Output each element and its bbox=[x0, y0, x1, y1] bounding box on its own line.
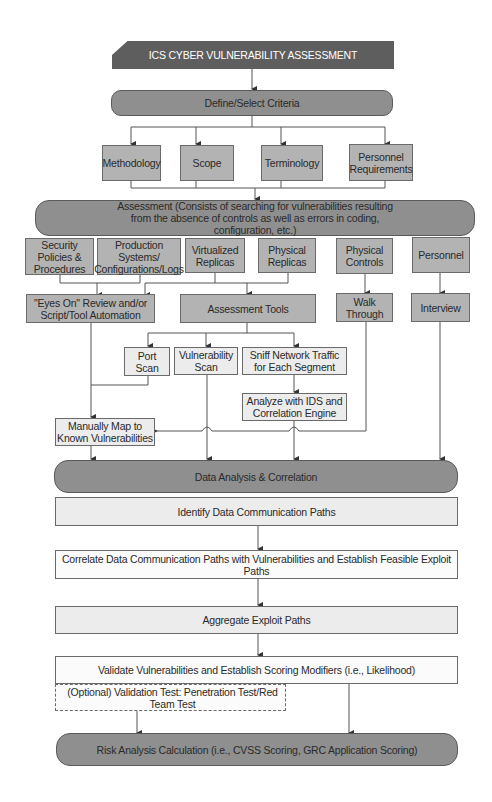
assessment-tools-node: Assessment Tools bbox=[180, 294, 316, 323]
identify-paths-step: Identify Data Communication Paths bbox=[55, 497, 458, 526]
risk-analysis-node: Risk Analysis Calculation (i.e., CVSS Sc… bbox=[56, 733, 458, 766]
interview-node: Interview bbox=[411, 293, 470, 322]
assessment-node: Assessment (Consists of searching for vu… bbox=[35, 200, 475, 236]
criteria-terminology: Terminology bbox=[261, 145, 323, 181]
vulnerability-scan-node: Vulnerability Scan bbox=[174, 347, 238, 375]
source-virtualized-replicas: Virtualized Replicas bbox=[185, 238, 245, 273]
criteria-methodology: Methodology bbox=[102, 145, 161, 181]
optional-validation-test: (Optional) Validation Test: Penetration … bbox=[55, 684, 286, 711]
eyes-on-review-node: "Eyes On" Review and/or Script/Tool Auto… bbox=[26, 294, 155, 323]
source-personnel: Personnel bbox=[412, 237, 470, 273]
source-physical-controls: Physical Controls bbox=[336, 238, 393, 274]
walk-through-node: Walk Through bbox=[336, 293, 393, 322]
criteria-personnel-requirements: Personnel Requirements bbox=[349, 144, 413, 181]
title-banner: ICS CYBER VULNERABILITY ASSESSMENT bbox=[112, 41, 394, 69]
validate-step: Validate Vulnerabilities and Establish S… bbox=[55, 656, 458, 684]
source-physical-replicas: Physical Replicas bbox=[258, 238, 316, 273]
manual-map-node: Manually Map to Known Vulnerabilities bbox=[55, 418, 155, 446]
criteria-scope: Scope bbox=[180, 145, 234, 181]
analyze-ids-node: Analyze with IDS and Correlation Engine bbox=[242, 393, 347, 421]
page-fragment bbox=[130, 0, 142, 4]
data-analysis-node: Data Analysis & Correlation bbox=[54, 460, 458, 493]
source-security-policies: Security Policies & Procedures bbox=[25, 238, 94, 275]
aggregate-paths-step: Aggregate Exploit Paths bbox=[55, 606, 458, 634]
sniff-traffic-node: Sniff Network Traffic for Each Segment bbox=[242, 347, 347, 375]
define-criteria-node: Define/Select Criteria bbox=[111, 90, 393, 116]
correlate-paths-step: Correlate Data Communication Paths with … bbox=[55, 550, 458, 579]
port-scan-node: Port Scan bbox=[124, 347, 170, 376]
source-production-systems: Production Systems/ Configurations/Logs bbox=[97, 238, 181, 275]
